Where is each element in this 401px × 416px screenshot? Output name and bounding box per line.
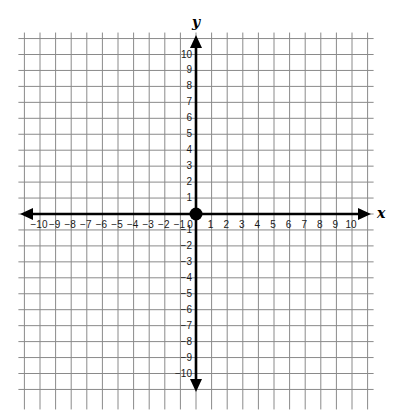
- y-tick-label: 9: [186, 64, 192, 75]
- x-tick-label: 4: [255, 219, 261, 230]
- y-axis-bottom-arrow-icon: [190, 379, 202, 392]
- x-tick-label: −4: [127, 219, 139, 230]
- x-tick-label: 5: [270, 219, 276, 230]
- x-tick-label: 3: [239, 219, 245, 230]
- y-tick-label: −10: [175, 368, 192, 379]
- x-tick-label: −9: [49, 219, 61, 230]
- y-tick-label: 7: [186, 96, 192, 107]
- x-tick-label: −5: [111, 219, 123, 230]
- x-tick-label: 10: [345, 219, 357, 230]
- y-tick-label: −4: [181, 272, 193, 283]
- y-tick-label: −9: [181, 352, 193, 363]
- origin-point: [190, 208, 203, 221]
- coordinate-plane: −10−9−8−7−6−5−4−3−2−10123456789101098765…: [0, 0, 401, 416]
- y-tick-label: −8: [181, 336, 193, 347]
- x-tick-label: −7: [80, 219, 92, 230]
- x-tick-label: −8: [64, 219, 76, 230]
- y-tick-label: 2: [186, 176, 192, 187]
- y-tick-label: 8: [186, 80, 192, 91]
- y-tick-label: −3: [181, 256, 193, 267]
- y-tick-label: 3: [186, 160, 192, 171]
- y-tick-label: −5: [181, 288, 193, 299]
- x-tick-label: 8: [317, 219, 323, 230]
- y-axis-top-arrow-icon: [190, 35, 202, 48]
- y-axis-label: y: [191, 14, 201, 30]
- y-tick-label: −2: [181, 240, 193, 251]
- y-tick-label: 5: [186, 128, 192, 139]
- y-tick-label: 10: [181, 49, 193, 60]
- x-tick-label: −2: [158, 219, 170, 230]
- x-tick-label: 9: [333, 219, 339, 230]
- y-tick-label: −6: [181, 304, 193, 315]
- x-tick-label: −10: [31, 219, 48, 230]
- x-tick-label: 1: [208, 219, 214, 230]
- y-tick-label: 6: [186, 112, 192, 123]
- y-tick-label: −7: [181, 320, 193, 331]
- x-tick-label: −3: [142, 219, 154, 230]
- y-tick-label: 4: [186, 144, 192, 155]
- x-tick-label: 7: [301, 219, 307, 230]
- y-tick-label: −1: [181, 224, 193, 235]
- x-axis-right-arrow-icon: [358, 208, 371, 220]
- x-tick-label: 2: [223, 219, 229, 230]
- x-axis-label: x: [376, 205, 386, 221]
- x-tick-label: 6: [286, 219, 292, 230]
- x-tick-label: −6: [96, 219, 108, 230]
- y-tick-label: 1: [186, 192, 192, 203]
